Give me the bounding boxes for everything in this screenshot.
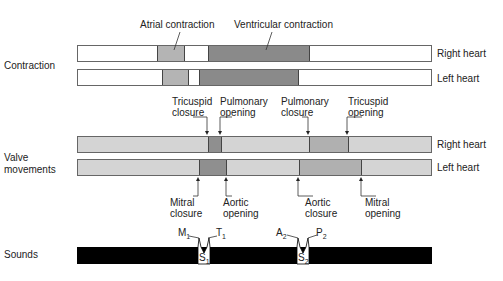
aortic-closure-1: Aortic xyxy=(305,197,331,208)
m1-label: M1 xyxy=(178,227,190,242)
atrial-contraction-label: Atrial contraction xyxy=(140,19,214,30)
aortic-opening-1: Aortic xyxy=(223,197,249,208)
row-label-contraction: Contraction xyxy=(4,60,55,72)
row-label-valve-1: Valve xyxy=(4,152,28,164)
leader-lines xyxy=(0,0,503,281)
row-label-valve-2: movements xyxy=(4,164,56,176)
ventricular-contraction-label: Ventricular contraction xyxy=(234,19,333,30)
aortic-closure-2: closure xyxy=(305,208,337,219)
a2-label: A2 xyxy=(276,227,287,242)
pulmonary-opening-1: Pulmonary xyxy=(220,96,268,107)
pulmonary-closure-1: Pulmonary xyxy=(281,96,329,107)
mitral-closure-1: Mitral xyxy=(170,197,194,208)
right-heart-label-1: Right heart xyxy=(437,48,486,59)
row-label-sounds: Sounds xyxy=(4,249,38,261)
mitral-closure-2: closure xyxy=(170,208,202,219)
p2-label: P2 xyxy=(316,227,327,242)
s2-label: S2 xyxy=(298,252,309,267)
tricuspid-opening-1: Tricuspid xyxy=(348,96,388,107)
mitral-opening-1: Mitral xyxy=(365,197,389,208)
tricuspid-closure-1: Tricuspid xyxy=(172,96,212,107)
tricuspid-opening-2: opening xyxy=(348,107,384,118)
pulmonary-opening-2: opening xyxy=(220,107,256,118)
tricuspid-closure-2: closure xyxy=(172,107,204,118)
right-heart-label-2: Right heart xyxy=(437,139,486,150)
t1-label: T1 xyxy=(216,227,226,242)
pulmonary-closure-2: closure xyxy=(281,107,313,118)
left-heart-label-1: Left heart xyxy=(437,73,479,84)
mitral-opening-2: opening xyxy=(365,208,401,219)
aortic-opening-2: opening xyxy=(223,208,259,219)
left-heart-label-2: Left heart xyxy=(437,162,479,173)
s1-label: S1 xyxy=(199,252,210,267)
